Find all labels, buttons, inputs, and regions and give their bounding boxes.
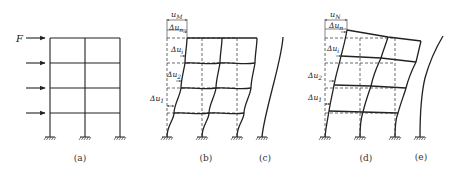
top-displacement-label-d: uN <box>330 10 341 20</box>
lateral-load-arrows <box>26 38 45 113</box>
caption-e: (e) <box>415 152 427 162</box>
drift-label: Δui <box>326 44 339 54</box>
force-label: F <box>15 33 24 44</box>
deformed-frame-d <box>325 30 421 137</box>
storey-drift-labels-d: Δun Δui Δu2 Δu1 <box>307 21 347 104</box>
drift-label: Δu1 <box>307 93 322 103</box>
fixed-supports-b <box>161 137 243 140</box>
drift-label: Δun <box>328 21 343 31</box>
drift-label: Δu2 <box>307 71 322 81</box>
flexural-deflection-curve <box>420 36 443 137</box>
caption-d: (d) <box>360 153 373 163</box>
frame-deformation-figure: F (a) <box>0 0 450 175</box>
panel-a: F (a) <box>15 33 126 163</box>
storey-drift-labels-b: Δun Δui Δu2 Δu1 <box>149 23 187 106</box>
drift-label: Δu2 <box>166 70 181 80</box>
caption-b: (b) <box>200 153 213 163</box>
drift-label: Δun <box>168 23 183 33</box>
panel-b: uM Δun Δui Δu2 Δu1 (b) <box>149 10 257 163</box>
caption-c: (c) <box>259 153 271 163</box>
panel-c: (c) <box>256 37 283 163</box>
top-displacement-label-b: uM <box>171 10 183 20</box>
fixed-supports-d <box>319 137 401 140</box>
fixed-supports-a <box>44 137 126 140</box>
drift-label: Δu1 <box>149 94 164 104</box>
drift-label: Δui <box>170 45 183 55</box>
shear-deflection-curve <box>262 37 283 137</box>
caption-a: (a) <box>74 153 86 163</box>
panel-d: uN Δun Δui Δu2 Δu1 (d) <box>307 10 421 163</box>
